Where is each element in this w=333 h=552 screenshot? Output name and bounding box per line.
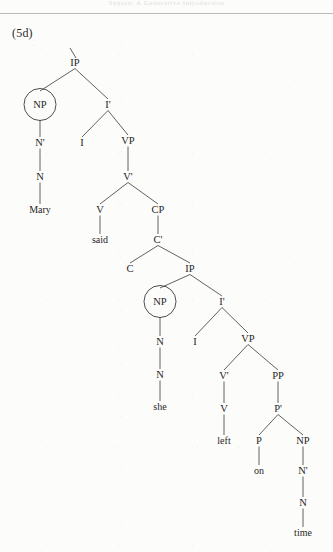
- tree-node-v1: V: [96, 204, 104, 215]
- tree-node-n2: N: [156, 369, 164, 380]
- tree-node-p1: P: [256, 435, 262, 446]
- tree-branch-ip2-ibar2: [190, 275, 222, 297]
- tree-branch-vp2-vbar2: [224, 345, 248, 371]
- syntax-tree-diagram: IPNPI'N'IVPNV'MaryVCPsaidC'CIPNPI'NIVPNV…: [0, 0, 333, 552]
- tree-branch-ip1-ibar1: [75, 69, 108, 100]
- tree-branch-pbar1-p1: [259, 415, 278, 436]
- tree-node-ibar2: I': [219, 296, 224, 307]
- tree-node-np1: NP: [33, 99, 47, 110]
- tree-branch-cbar1-c1: [130, 246, 158, 264]
- tree-node-pbar1: P': [274, 403, 282, 414]
- tree-branch-ibar1-i1: [82, 111, 108, 138]
- tree-branch-ip1-np1: [40, 69, 75, 92]
- tree-node-i2: I: [193, 336, 197, 347]
- tree-node-vp2: VP: [241, 333, 255, 344]
- tree-node-v2: V: [220, 403, 228, 414]
- tree-branch-cbar1-ip2: [158, 246, 190, 264]
- tree-branch-ibar2-vp2: [222, 308, 248, 334]
- tree-node-nbar1: N': [35, 137, 45, 148]
- tree-branch-vbar1-cp1: [128, 183, 158, 205]
- tree-node-np2: NP: [153, 296, 167, 307]
- tree-branch-ibar2-i2: [195, 308, 222, 337]
- tree-branch-vbar1-v1: [100, 183, 128, 205]
- tree-node-label-layer: IPNPI'N'IVPNV'MaryVCPsaidC'CIPNPI'NIVPNV…: [29, 57, 312, 538]
- tree-node-nbar2: N: [156, 336, 164, 347]
- tree-node-ip1: IP: [70, 57, 79, 68]
- tree-leaf-time: time: [294, 527, 312, 538]
- tree-node-np3: NP: [296, 435, 310, 446]
- tree-node-vbar2: V': [219, 370, 229, 381]
- tree-node-ibar1: I': [105, 99, 110, 110]
- tree-leaf-on: on: [254, 465, 264, 476]
- tree-node-n1: N: [36, 171, 44, 182]
- tree-node-i1: I: [80, 137, 84, 148]
- tree-node-vp1: VP: [121, 135, 135, 146]
- tree-branch-ibar1-vp1: [108, 111, 128, 136]
- tree-node-cbar1: C': [154, 234, 163, 245]
- tree-node-vbar1: V': [123, 171, 133, 182]
- tree-leaf-she: she: [153, 401, 167, 412]
- page-canvas: Syntax: A Generative Introduction (5d) I…: [0, 0, 333, 552]
- tree-node-cp1: CP: [152, 204, 165, 215]
- tree-node-c1: C: [126, 263, 133, 274]
- tree-leaf-mary: Mary: [29, 204, 51, 215]
- tree-circle-layer: [24, 89, 176, 318]
- tree-leaf-said: said: [92, 234, 108, 245]
- tree-branch-pbar1-np3: [278, 415, 303, 436]
- tree-node-nbar3: N': [298, 465, 308, 476]
- tree-node-n3: N: [299, 497, 307, 508]
- tree-node-pp1: PP: [272, 370, 284, 381]
- tree-leaf-left: left: [217, 435, 231, 446]
- tree-branch-vp2-pp1: [248, 345, 278, 371]
- tree-node-ip2: IP: [185, 263, 194, 274]
